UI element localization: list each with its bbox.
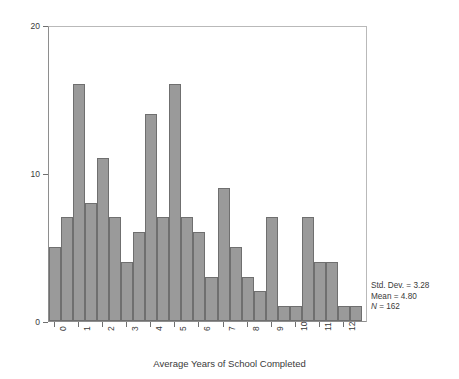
histogram-bar <box>181 217 193 321</box>
x-tick-label: 1 <box>82 326 92 331</box>
x-tick-mark <box>223 322 224 327</box>
x-tick-label: 4 <box>154 326 164 331</box>
x-axis-label: Average Years of School Completed <box>0 358 459 369</box>
x-tick-mark <box>126 322 127 327</box>
histogram-bar <box>61 217 73 321</box>
x-tick-label: 6 <box>202 326 212 331</box>
histogram-bar <box>133 232 145 321</box>
n-value: = 162 <box>377 302 400 311</box>
histogram-bar <box>290 306 302 321</box>
std-dev-text: Std. Dev. = 3.28 <box>371 281 429 292</box>
x-tick-label: 7 <box>227 326 237 331</box>
histogram-bar <box>97 158 109 321</box>
stats-annotation: Std. Dev. = 3.28 Mean = 4.80 N = 162 <box>371 281 429 313</box>
histogram-bar <box>73 84 85 321</box>
histogram-bar <box>205 277 217 321</box>
x-tick-label: 2 <box>106 326 116 331</box>
histogram-bar <box>266 217 278 321</box>
plot-area <box>48 26 367 322</box>
histogram-bar <box>157 217 169 321</box>
x-tick-label: 9 <box>275 326 285 331</box>
x-tick-mark <box>295 322 296 327</box>
histogram-bar <box>326 262 338 321</box>
histogram-bar <box>254 291 266 321</box>
histogram-bar <box>145 114 157 321</box>
histogram-bar <box>193 232 205 321</box>
histogram-bar <box>85 203 97 321</box>
x-tick-mark <box>247 322 248 327</box>
y-tick-label: 20 <box>16 22 40 31</box>
histogram-bar <box>242 277 254 321</box>
histogram-bar <box>350 306 362 321</box>
histogram-bar <box>338 306 350 321</box>
histogram-bar <box>218 188 230 321</box>
histogram-bar <box>314 262 326 321</box>
histogram-bar <box>121 262 133 321</box>
bar-series <box>49 27 366 321</box>
x-tick-label: 10 <box>299 322 309 331</box>
histogram-figure: Frequency 01020 0123456789101112 Average… <box>0 0 459 379</box>
x-tick-mark <box>271 322 272 327</box>
x-tick-label: 5 <box>178 326 188 331</box>
x-tick-mark <box>78 322 79 327</box>
x-tick-label: 11 <box>323 322 333 331</box>
x-tick-mark <box>54 322 55 327</box>
y-tick-mark <box>43 322 48 323</box>
y-tick-label: 0 <box>16 318 40 327</box>
x-tick-mark <box>319 322 320 327</box>
x-tick-mark <box>150 322 151 327</box>
x-tick-mark <box>174 322 175 327</box>
x-tick-label: 0 <box>58 326 68 331</box>
mean-text: Mean = 4.80 <box>371 292 429 303</box>
histogram-bar <box>49 247 61 321</box>
histogram-bar <box>230 247 242 321</box>
y-tick-label: 10 <box>16 170 40 179</box>
histogram-bar <box>109 217 121 321</box>
x-tick-label: 12 <box>347 322 357 331</box>
x-tick-label: 3 <box>130 326 140 331</box>
n-text: N = 162 <box>371 302 429 313</box>
histogram-bar <box>278 306 290 321</box>
histogram-bar <box>302 217 314 321</box>
x-tick-label: 8 <box>251 326 261 331</box>
x-tick-mark <box>343 322 344 327</box>
histogram-bar <box>169 84 181 321</box>
x-tick-mark <box>198 322 199 327</box>
x-tick-mark <box>102 322 103 327</box>
